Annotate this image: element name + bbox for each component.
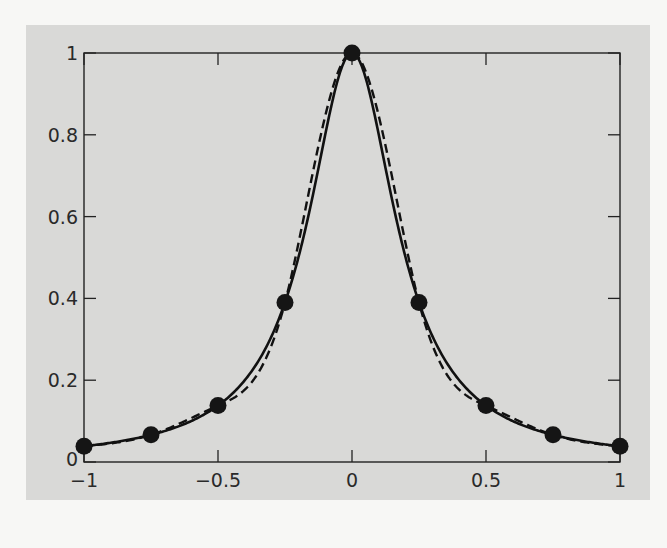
- y-tick-label: 0.8: [48, 124, 78, 146]
- y-tick-label: 0.6: [48, 206, 78, 228]
- data-point: [76, 438, 93, 455]
- axes-frame: [84, 53, 620, 462]
- data-point: [411, 294, 428, 311]
- data-point: [478, 397, 495, 414]
- x-tick-label: 1: [614, 469, 626, 491]
- data-point-markers: [76, 45, 629, 455]
- axis-ticks: [84, 53, 620, 462]
- plot-frame: [84, 53, 620, 462]
- data-point: [545, 426, 562, 443]
- x-tick-label: 0: [346, 469, 358, 491]
- data-point: [143, 426, 160, 443]
- y-tick-label: 0.4: [48, 287, 78, 309]
- y-tick-label: 0: [66, 448, 78, 470]
- x-tick-label: 0.5: [471, 469, 501, 491]
- runge-function-curve: [84, 53, 620, 446]
- x-tick-label: −0.5: [195, 469, 241, 491]
- chart-svg: −1−0.500.5100.20.40.60.81: [0, 0, 667, 548]
- interpolant-dashed-curve: [84, 53, 620, 446]
- data-point: [277, 294, 294, 311]
- data-point: [210, 397, 227, 414]
- tick-labels: −1−0.500.5100.20.40.60.81: [48, 42, 626, 491]
- y-tick-label: 1: [66, 42, 78, 64]
- data-point: [612, 438, 629, 455]
- x-tick-label: −1: [70, 469, 98, 491]
- data-point: [344, 45, 361, 62]
- y-tick-label: 0.2: [48, 369, 78, 391]
